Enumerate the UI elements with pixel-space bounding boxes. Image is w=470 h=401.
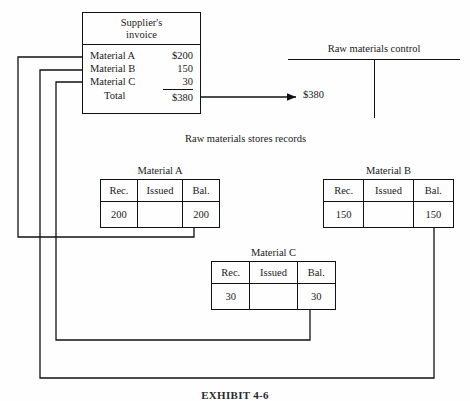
cell-balance: 30 <box>297 284 335 310</box>
table-row: 30 30 <box>212 284 336 310</box>
invoice-row-label: Material B <box>90 62 135 75</box>
invoice-total-amount: $380 <box>163 89 193 102</box>
cell-received: 150 <box>324 202 364 228</box>
invoice-row-label: Material C <box>90 75 135 88</box>
cell-balance: 200 <box>183 202 220 228</box>
column-header-balance: Bal. <box>297 262 335 284</box>
table-header-row: Rec. Issued Bal. <box>101 180 220 202</box>
stores-record-material-c: Material C Rec. Issued Bal. 30 30 <box>211 247 336 310</box>
cell-received: 200 <box>101 202 138 228</box>
column-header-balance: Bal. <box>183 180 220 202</box>
invoice-title: Supplier's invoice <box>83 13 200 45</box>
cell-received: 30 <box>212 284 250 310</box>
t-account-vertical-rule <box>374 59 375 118</box>
invoice-row: Material A $200 <box>90 49 193 62</box>
table-header-row: Rec. Issued Bal. <box>324 180 454 202</box>
stores-records-caption: Raw materials stores records <box>185 133 306 144</box>
column-header-received: Rec. <box>212 262 250 284</box>
invoice-total-label: Total <box>104 89 125 102</box>
stores-record-material-a: Material A Rec. Issued Bal. 200 200 <box>100 165 220 228</box>
invoice-row-amount: 30 <box>183 75 194 88</box>
stores-record-table: Rec. Issued Bal. 30 30 <box>211 261 336 310</box>
stores-record-table: Rec. Issued Bal. 200 200 <box>100 179 220 228</box>
cell-issued <box>250 284 297 310</box>
column-header-issued: Issued <box>137 180 182 202</box>
cell-issued <box>137 202 182 228</box>
invoice-total-row: Total $380 <box>90 89 193 102</box>
invoice-title-line1: Supplier's <box>121 17 163 28</box>
invoice-row: Material B 150 <box>90 62 193 75</box>
invoice-row-label: Material A <box>90 49 135 62</box>
invoice-row: Material C 30 <box>90 75 193 88</box>
stores-record-table: Rec. Issued Bal. 150 150 <box>323 179 454 228</box>
stores-record-title: Material A <box>100 165 220 177</box>
invoice-row-amount: $200 <box>172 49 193 62</box>
stores-record-title: Material C <box>211 247 336 259</box>
cell-issued <box>364 202 413 228</box>
column-header-balance: Bal. <box>413 180 453 202</box>
invoice-title-line2: invoice <box>126 29 157 40</box>
column-header-received: Rec. <box>101 180 138 202</box>
table-header-row: Rec. Issued Bal. <box>212 262 336 284</box>
table-row: 200 200 <box>101 202 220 228</box>
cell-balance: 150 <box>413 202 453 228</box>
stores-record-material-b: Material B Rec. Issued Bal. 150 150 <box>323 165 454 228</box>
suppliers-invoice-box: Supplier's invoice Material A $200 Mater… <box>82 12 201 114</box>
stores-record-title: Material B <box>323 165 454 177</box>
diagram-canvas: Supplier's invoice Material A $200 Mater… <box>0 0 470 401</box>
invoice-line-items: Material A $200 Material B 150 Material … <box>83 45 200 102</box>
table-row: 150 150 <box>324 202 454 228</box>
column-header-issued: Issued <box>364 180 413 202</box>
column-header-received: Rec. <box>324 180 364 202</box>
control-account-debit-amount: $380 <box>303 89 324 100</box>
exhibit-caption: EXHIBIT 4-6 <box>0 389 470 401</box>
control-account-title: Raw materials control <box>288 43 460 54</box>
invoice-row-amount: 150 <box>177 62 193 75</box>
column-header-issued: Issued <box>250 262 297 284</box>
